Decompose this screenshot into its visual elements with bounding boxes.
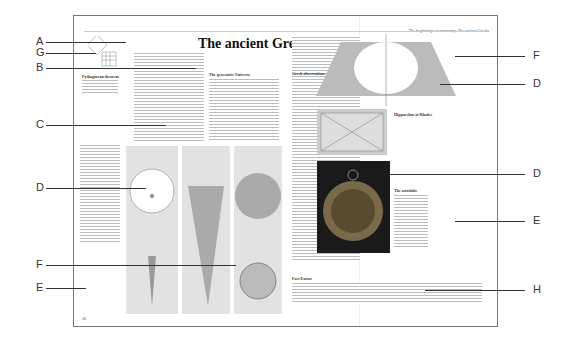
fact-heading: Fact Extras [292, 276, 312, 281]
pythagorean-diagram-icon [88, 36, 120, 68]
body-column-1 [134, 52, 204, 142]
fact-extras-text [292, 282, 482, 304]
callout-label: B [36, 61, 43, 73]
callout-label: G [36, 46, 45, 58]
book-spread: The beginnings of astronomy: The ancient… [73, 15, 498, 327]
callout-label: F [36, 258, 43, 270]
callout-label: E [533, 214, 540, 226]
hipparchus-diagram [317, 109, 387, 155]
sidebar-caption [80, 144, 120, 244]
callout-label: D [533, 167, 541, 179]
figure-panel-a [126, 146, 178, 314]
callout-label: E [36, 281, 43, 293]
callout-label: H [533, 283, 541, 295]
celestial-sphere-diagram-icon [316, 34, 456, 106]
caption-astrolabe: The astrolabe [394, 188, 417, 193]
figure-panel-c [234, 146, 282, 314]
callout-label: D [36, 181, 44, 193]
figure-panel-b [182, 146, 230, 314]
page-number: 56 [82, 316, 86, 321]
callout-label: C [36, 118, 44, 130]
callout-label: D [533, 77, 541, 89]
astrolabe-photo [317, 161, 390, 253]
astrolabe-caption-text [394, 194, 428, 249]
caption-hipparchus: Hipparchus at Rhodes [394, 112, 432, 117]
section-heading: The geocentric Universe [209, 72, 250, 77]
callout-label: F [533, 49, 540, 61]
body-column-2 [209, 78, 279, 142]
header-rule [84, 31, 484, 32]
caption-text [82, 79, 118, 93]
